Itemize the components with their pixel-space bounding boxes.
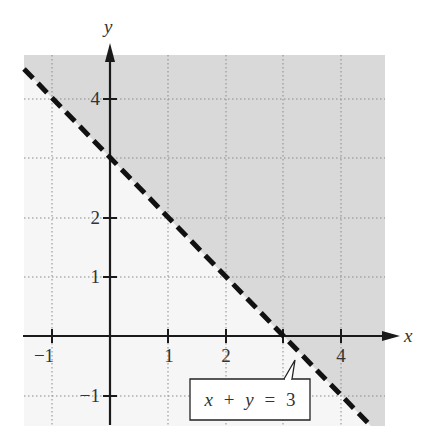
callout-constant: 3 (286, 389, 296, 410)
y-axis-arrow-icon (105, 43, 115, 62)
y-tick-label: 1 (91, 266, 101, 287)
x-tick-label: −1 (34, 345, 54, 366)
y-tick-label: −1 (80, 385, 100, 406)
callout-x: x (204, 389, 214, 410)
callout-equals: = (264, 389, 275, 410)
inequality-graph: y x −1 1 2 4 4 2 1 −1 x + y = 3 (0, 0, 435, 445)
callout-y: y (243, 389, 254, 410)
x-axis-arrow-icon (382, 331, 400, 341)
y-tick-label: 4 (91, 88, 101, 109)
y-tick-label: 2 (91, 207, 101, 228)
x-tick-label: 2 (221, 345, 231, 366)
x-tick-label: 4 (336, 345, 346, 366)
callout-plus: + (224, 389, 235, 410)
y-axis-label: y (102, 16, 113, 37)
x-tick-label: 1 (164, 345, 174, 366)
x-axis-label: x (403, 325, 413, 346)
